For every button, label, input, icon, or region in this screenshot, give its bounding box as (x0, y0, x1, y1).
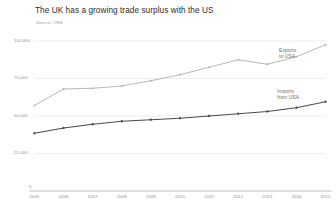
x-axis-tick-label: 2010 (175, 194, 185, 199)
data-point (179, 117, 181, 119)
x-axis-tick-label: 2011 (204, 194, 214, 199)
data-point (237, 59, 239, 61)
plot-svg (0, 0, 336, 218)
data-point (179, 74, 181, 76)
data-point (266, 110, 268, 112)
data-point (121, 120, 123, 122)
data-point (150, 80, 152, 82)
data-point (92, 87, 94, 89)
y-axis-tick-label: 50,000 (14, 113, 28, 118)
x-axis-tick-label: 2006 (59, 194, 69, 199)
data-point (295, 107, 297, 109)
data-point (237, 113, 239, 115)
y-axis-tick-label: 100,000 (14, 38, 30, 43)
data-point (208, 115, 210, 117)
series-label-imports: Imports from USA (277, 88, 299, 101)
data-point (92, 123, 94, 125)
series-imports (33, 101, 326, 135)
x-axis-tick-label: 2013 (262, 194, 272, 199)
series-label-exports-line2: to USA (279, 53, 296, 59)
series-label-imports-line2: from USA (277, 94, 299, 100)
x-axis-tick-label: 2008 (117, 194, 127, 199)
chart-container: The UK has a growing trade surplus with … (0, 0, 336, 218)
x-axis-tick-label: 2015 (321, 194, 331, 199)
x-axis-tick-label: 2009 (146, 194, 156, 199)
data-point (324, 101, 326, 103)
data-point (325, 44, 327, 46)
data-point (33, 132, 35, 134)
x-axis-tick-label: 2012 (233, 194, 243, 199)
data-point (208, 66, 210, 68)
y-axis-tick-label: 25,000 (14, 150, 28, 155)
x-axis-tick-label: 2014 (291, 194, 301, 199)
data-point (150, 119, 152, 121)
data-point (34, 105, 36, 107)
data-point (62, 127, 64, 129)
plot-area (0, 0, 336, 218)
data-point (266, 63, 268, 65)
y-axis-tick-label: 75,000 (14, 75, 28, 80)
x-axis-tick-label: 2007 (88, 194, 98, 199)
y-axis-zero-label: 0 (29, 184, 31, 189)
series-label-exports: Exports to USA (279, 47, 296, 60)
data-point (121, 85, 123, 87)
data-point (63, 88, 65, 90)
x-axis-tick-label: 2005 (30, 194, 40, 199)
